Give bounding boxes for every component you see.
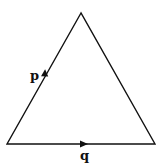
arrow-q-icon <box>80 141 88 148</box>
vector-label-p: p <box>30 68 39 83</box>
vector-label-q: q <box>80 148 89 163</box>
triangle-diagram: p q <box>0 0 164 168</box>
triangle-svg: p q <box>0 0 164 168</box>
